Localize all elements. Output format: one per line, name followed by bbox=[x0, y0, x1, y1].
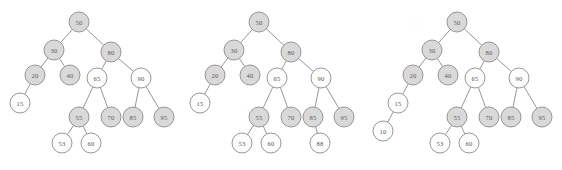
tree-node-88: 88 bbox=[310, 133, 330, 153]
node-label: 20 bbox=[32, 72, 39, 79]
tree-edge bbox=[461, 87, 471, 108]
tree-node-80: 80 bbox=[101, 42, 121, 62]
tree-left: 5030802040659015557085955360 bbox=[10, 12, 174, 153]
node-label: 40 bbox=[247, 72, 254, 79]
tree-node-30: 30 bbox=[224, 40, 244, 60]
node-label: 90 bbox=[138, 75, 145, 82]
tree-node-55: 55 bbox=[447, 107, 467, 127]
node-label: 55 bbox=[454, 114, 461, 121]
node-label: 30 bbox=[429, 47, 436, 54]
node-label: 50 bbox=[76, 19, 83, 26]
node-label: 80 bbox=[108, 49, 115, 56]
node-label: 65 bbox=[94, 75, 101, 82]
tree-node-90: 90 bbox=[311, 68, 331, 88]
tree-node-90: 90 bbox=[131, 68, 151, 88]
node-label: 65 bbox=[472, 75, 479, 82]
tree-node-95: 95 bbox=[334, 107, 354, 127]
node-label: 70 bbox=[288, 114, 295, 121]
tree-node-80: 80 bbox=[479, 42, 499, 62]
tree-edge bbox=[263, 87, 273, 108]
tree-edge bbox=[86, 29, 103, 45]
tree-node-50: 50 bbox=[249, 12, 269, 32]
tree-edge bbox=[247, 125, 253, 134]
node-label: 95 bbox=[341, 114, 348, 121]
node-label: 20 bbox=[212, 72, 219, 79]
tree-edge bbox=[524, 87, 537, 109]
tree-edge bbox=[437, 58, 442, 66]
tree-edge bbox=[464, 29, 481, 45]
node-label: 53 bbox=[59, 140, 66, 147]
tree-node-53: 53 bbox=[232, 133, 252, 153]
tree-edge bbox=[146, 87, 159, 109]
tree-node-70: 70 bbox=[479, 107, 499, 127]
tree-node-60: 60 bbox=[261, 133, 281, 153]
tree-node-55: 55 bbox=[69, 107, 89, 127]
node-label: 90 bbox=[318, 75, 325, 82]
node-label: 88 bbox=[317, 140, 324, 147]
tree-node-85: 85 bbox=[123, 107, 143, 127]
tree-edge bbox=[403, 84, 409, 94]
tree-edge bbox=[439, 29, 451, 42]
tree-edge bbox=[102, 61, 107, 69]
node-label: 50 bbox=[256, 19, 263, 26]
tree-node-15: 15 bbox=[10, 93, 30, 113]
node-label: 30 bbox=[231, 47, 238, 54]
tree-middle: 503080204065901555708595536088 bbox=[190, 12, 354, 153]
tree-node-70: 70 bbox=[281, 107, 301, 127]
tree-node-40: 40 bbox=[438, 65, 458, 85]
tree-node-30: 30 bbox=[44, 40, 64, 60]
tree-edge bbox=[419, 58, 426, 67]
node-label: 55 bbox=[256, 114, 263, 121]
node-label: 85 bbox=[130, 114, 137, 121]
tree-edge bbox=[316, 127, 318, 134]
tree-node-85: 85 bbox=[501, 107, 521, 127]
tree-edge bbox=[241, 29, 253, 42]
tree-edge bbox=[61, 29, 73, 42]
tree-node-95: 95 bbox=[532, 107, 552, 127]
node-label: 80 bbox=[486, 49, 493, 56]
tree-node-95: 95 bbox=[154, 107, 174, 127]
tree-edge bbox=[326, 87, 339, 109]
tree-edge bbox=[100, 87, 107, 107]
node-label: 53 bbox=[239, 140, 246, 147]
tree-right: 503080204065901555708595105360 bbox=[373, 12, 552, 153]
tree-node-20: 20 bbox=[25, 65, 45, 85]
node-label: 70 bbox=[486, 114, 493, 121]
tree-node-60: 60 bbox=[459, 133, 479, 153]
tree-node-60: 60 bbox=[81, 133, 101, 153]
tree-node-65: 65 bbox=[267, 68, 287, 88]
tree-edge bbox=[480, 61, 485, 69]
tree-edge bbox=[239, 58, 244, 66]
node-label: 15 bbox=[395, 100, 402, 107]
tree-node-70: 70 bbox=[101, 107, 121, 127]
tree-node-55: 55 bbox=[249, 107, 269, 127]
tree-edge bbox=[25, 84, 31, 94]
tree-edge bbox=[205, 84, 211, 94]
tree-edge bbox=[299, 59, 314, 72]
tree-edge bbox=[263, 126, 267, 134]
tree-edge bbox=[282, 61, 287, 69]
tree-edge bbox=[280, 87, 287, 107]
tree-node-20: 20 bbox=[403, 65, 423, 85]
tree-edge bbox=[59, 58, 64, 66]
node-label: 50 bbox=[454, 19, 461, 26]
tree-node-53: 53 bbox=[52, 133, 72, 153]
tree-node-65: 65 bbox=[87, 68, 107, 88]
tree-node-15: 15 bbox=[388, 93, 408, 113]
node-label: 60 bbox=[88, 140, 95, 147]
tree-edge bbox=[266, 29, 283, 45]
tree-node-30: 30 bbox=[422, 40, 442, 60]
tree-node-80: 80 bbox=[281, 42, 301, 62]
tree-edge bbox=[67, 125, 73, 134]
node-label: 10 bbox=[380, 128, 387, 135]
node-label: 60 bbox=[268, 140, 275, 147]
node-label: 15 bbox=[17, 100, 24, 107]
binary-search-tree-diagram: 5030802040659015557085955360503080204065… bbox=[0, 0, 562, 170]
node-label: 15 bbox=[197, 100, 204, 107]
tree-node-20: 20 bbox=[205, 65, 225, 85]
node-label: 20 bbox=[410, 72, 417, 79]
node-label: 95 bbox=[161, 114, 168, 121]
tree-node-50: 50 bbox=[69, 12, 89, 32]
tree-edge bbox=[41, 58, 48, 67]
tree-node-90: 90 bbox=[509, 68, 529, 88]
